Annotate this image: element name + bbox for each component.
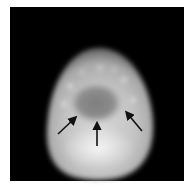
bright-region <box>62 126 134 170</box>
central-lesion <box>70 83 122 123</box>
scan-image <box>0 0 196 192</box>
